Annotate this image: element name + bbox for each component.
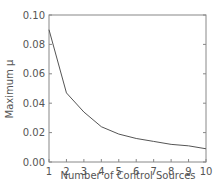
- x-axis-label: Number of Control Sources: [60, 170, 195, 181]
- y-tick-label: 0.06: [23, 68, 45, 79]
- y-tick-label: 0.10: [23, 10, 45, 21]
- y-tick-label: 0.08: [23, 39, 45, 50]
- plot-frame: [49, 15, 206, 162]
- y-axis-label: Maximum μ: [4, 59, 15, 118]
- series-line: [49, 30, 206, 149]
- x-tick-label: 1: [46, 166, 52, 177]
- data-series: [49, 30, 206, 149]
- y-tick-label: 0.02: [23, 127, 45, 138]
- x-tick-label: 10: [200, 166, 213, 177]
- line-chart: 0.000.020.040.060.080.10 12345678910 Num…: [0, 0, 222, 183]
- y-tick-label: 0.00: [23, 157, 45, 168]
- y-tick-label: 0.04: [23, 98, 45, 109]
